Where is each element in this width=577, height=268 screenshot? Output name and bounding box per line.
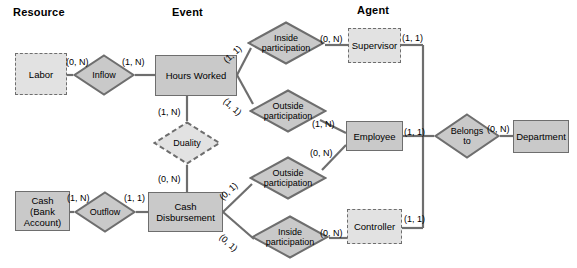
cardinality-belongs-to-department: (0, N) [487, 124, 510, 134]
entity-department[interactable]: Department [513, 120, 569, 153]
entity-employee[interactable]: Employee [346, 121, 403, 151]
entity-cash-label: Cash (Bank Account) [24, 195, 62, 228]
diamond-shape-inside-participation-1 [247, 21, 325, 65]
cardinality-inside-participation-2-controller: (0, N) [320, 228, 343, 238]
cardinality-outside-participation-2-employee: (0, N) [310, 148, 333, 158]
diamond-shape-inside-participation-2 [251, 215, 329, 259]
column-header-event: Event [172, 6, 203, 18]
entity-employee-label: Employee [353, 131, 395, 142]
entity-controller[interactable]: Controller [347, 209, 402, 244]
cardinality-controller-trunk: (1, 1) [404, 214, 425, 224]
diamond-shape-outside-participation-2 [249, 156, 327, 200]
entity-controller-label: Controller [354, 221, 395, 232]
cardinality-outflow-cash-disbursement: (1, 1) [124, 193, 145, 203]
entity-hours-worked-label: Hours Worked [166, 70, 227, 81]
entity-supervisor-label: Supervisor [352, 40, 397, 51]
relationship-inside-participation-2[interactable]: Inside participation [251, 215, 329, 259]
er-diagram-canvas: Resource Event Agent Labor Hours Worked … [0, 0, 577, 268]
cardinality-employee-trunk: (1, 1) [404, 127, 425, 137]
cardinality-inside-participation-1-supervisor: (0, N) [320, 34, 343, 44]
entity-cash-disbursement[interactable]: Cash Disbursement [148, 192, 223, 232]
cardinality-duality-cash-disbursement: (0, N) [158, 174, 181, 184]
cardinality-hours-duality: (1, N) [158, 107, 181, 117]
cardinality-labor-inflow: (0, N) [66, 57, 89, 67]
relationship-outside-participation-2[interactable]: Outside participation [249, 156, 327, 200]
entity-cash-disbursement-label: Cash Disbursement [156, 201, 215, 223]
entity-labor-label: Labor [29, 69, 53, 80]
entity-department-label: Department [516, 131, 566, 142]
relationship-inside-participation-1[interactable]: Inside participation [247, 21, 325, 65]
column-header-resource: Resource [13, 6, 65, 18]
entity-labor[interactable]: Labor [15, 53, 67, 95]
cardinality-outside-participation-1-employee: (1, N) [312, 119, 335, 129]
entity-cash-bank-account[interactable]: Cash (Bank Account) [15, 191, 70, 231]
column-header-agent: Agent [357, 4, 389, 16]
relationship-belongs-to[interactable]: Belongs to [434, 113, 500, 159]
relationship-duality[interactable]: Duality [153, 121, 221, 165]
cardinality-inflow-hours: (1, N) [122, 57, 145, 67]
cardinality-cash-outflow: (1, N) [67, 193, 90, 203]
diamond-shape-belongs-to [434, 113, 500, 159]
entity-supervisor[interactable]: Supervisor [348, 28, 401, 63]
cardinality-supervisor-trunk: (1, 1) [402, 33, 423, 43]
diamond-shape-duality [153, 121, 221, 165]
